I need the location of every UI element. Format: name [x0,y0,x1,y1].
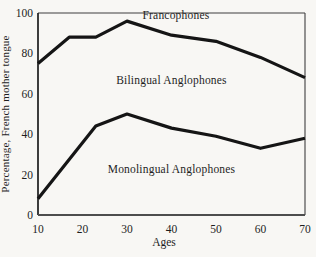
x-tick-label: 40 [166,223,178,235]
x-axis-title: Ages [152,236,176,249]
y-axis-title: Percentage, French mother tongue [0,35,11,192]
chart-figure: 02040608010010203040506070AgesPercentage… [0,0,316,257]
x-tick-label: 60 [255,223,267,235]
y-tick-label: 100 [16,7,34,19]
line-chart: 02040608010010203040506070AgesPercentage… [0,0,316,257]
x-tick-label: 20 [77,223,89,235]
x-tick-label: 70 [299,223,311,235]
y-tick-label: 60 [22,88,34,100]
y-tick-label: 40 [22,128,34,140]
region-label-monolingual-anglophones: Monolingual Anglophones [108,163,236,176]
y-tick-label: 20 [22,169,34,181]
x-tick-label: 30 [121,223,133,235]
y-tick-label: 0 [27,209,33,221]
x-tick-label: 10 [32,223,44,235]
figure-background [0,0,316,257]
region-label-bilingual-anglophones: Bilingual Anglophones [116,74,227,87]
region-label-francophones: Francophones [142,9,209,22]
x-tick-label: 50 [210,223,222,235]
y-tick-label: 80 [22,47,34,59]
